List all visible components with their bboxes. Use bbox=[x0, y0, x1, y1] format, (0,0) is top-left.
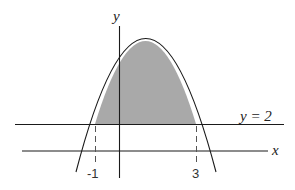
x-axis-label: x bbox=[271, 142, 279, 158]
tick-label-neg1: -1 bbox=[87, 166, 99, 181]
y-axis-label: y bbox=[111, 8, 120, 24]
line-label: y = 2 bbox=[238, 108, 272, 124]
tick-label-3: 3 bbox=[192, 166, 199, 181]
area-diagram: y x y = 2 -1 3 bbox=[0, 0, 295, 190]
shaded-region bbox=[95, 41, 196, 124]
